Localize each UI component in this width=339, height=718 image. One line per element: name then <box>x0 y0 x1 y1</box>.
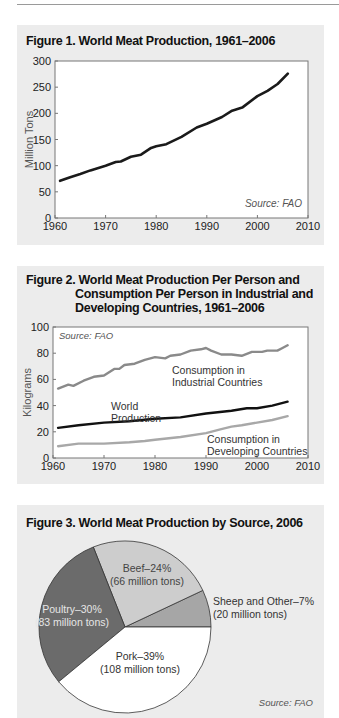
x-tick-label: 1970 <box>93 220 117 232</box>
x-tick-label: 2000 <box>245 220 269 232</box>
y-tick-label: 100 <box>33 160 51 172</box>
plot-area <box>55 61 308 218</box>
source-note: Source: FAO <box>245 198 302 209</box>
label-world: World <box>111 400 138 412</box>
source-note: Source: FAO <box>259 697 314 708</box>
x-tick-label: 1960 <box>43 220 67 232</box>
pie-label-poultry: Poultry–30% <box>42 603 102 615</box>
y-tick-label: 50 <box>39 186 51 198</box>
y-tick-label: 60 <box>37 373 49 385</box>
x-tick-label: 2010 <box>296 220 320 232</box>
pie-label-poultry: (83 million tons) <box>35 616 109 628</box>
pie-label-sheep: (20 million tons) <box>213 608 287 620</box>
x-tick-label: 2010 <box>296 460 320 472</box>
pie-label-pork: (108 million tons) <box>100 663 180 675</box>
label-world: Production <box>111 412 161 424</box>
pie-label-sheep: Sheep and Other–7% <box>213 595 314 607</box>
y-axis-label: Million Tons <box>23 110 35 168</box>
y-tick-label: 150 <box>33 134 51 146</box>
figure-3-pie-chart: Beef–24%(66 million tons)Sheep and Other… <box>17 505 324 718</box>
y-tick-label: 200 <box>33 107 51 119</box>
y-tick-label: 300 <box>33 55 51 67</box>
x-tick-label: 1970 <box>92 460 116 472</box>
y-tick-label: 250 <box>33 81 51 93</box>
x-tick-label: 1990 <box>194 460 218 472</box>
y-tick-label: 80 <box>37 347 49 359</box>
figure-1-chart: 0501001502002503001960197019801990200020… <box>17 25 324 245</box>
figure-2-chart: 020406080100196019701980199020002010Kilo… <box>17 266 324 484</box>
label-industrial: Industrial Countries <box>172 376 262 388</box>
top-rule <box>17 4 339 5</box>
pie-label-beef: (66 million tons) <box>110 575 184 587</box>
y-tick-label: 100 <box>31 321 49 333</box>
figure-1-panel: Figure 1. World Meat Production, 1961–20… <box>17 25 324 245</box>
figure-3-panel: Figure 3. World Meat Production by Sourc… <box>17 505 324 718</box>
source-note: Source: FAO <box>59 330 114 341</box>
pie-label-beef: Beef–24% <box>123 562 171 574</box>
x-tick-label: 2000 <box>245 460 269 472</box>
y-tick-label: 40 <box>37 400 49 412</box>
x-tick-label: 1980 <box>144 220 168 232</box>
figure-2-panel: Figure 2. World Meat Production Per Pers… <box>17 266 324 484</box>
x-tick-label: 1960 <box>41 460 65 472</box>
y-tick-label: 20 <box>37 426 49 438</box>
x-tick-label: 1980 <box>143 460 167 472</box>
x-tick-label: 1990 <box>195 220 219 232</box>
label-developing: Consumption in <box>207 433 280 445</box>
pie-label-pork: Pork–39% <box>116 650 164 662</box>
y-axis-label: Kilograms <box>21 368 33 417</box>
label-industrial: Consumption in <box>172 364 245 376</box>
label-developing: Developing Countries <box>207 445 307 457</box>
